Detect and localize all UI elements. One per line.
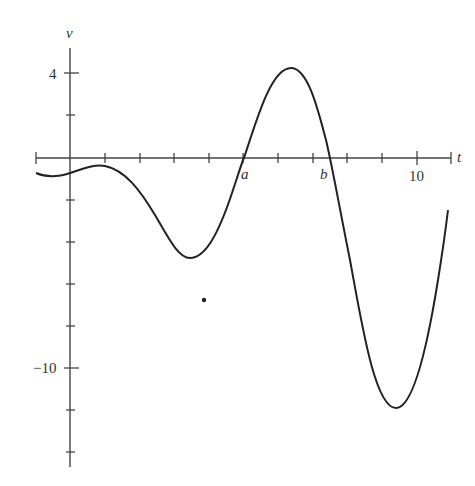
chart: v t 4 −10 a b 10: [0, 0, 475, 486]
stray-dot: [202, 298, 206, 302]
y-ticks: [64, 73, 79, 452]
x-tick-label-b: b: [320, 166, 328, 182]
y-tick-label-4: 4: [49, 66, 57, 82]
y-tick-label-neg10: −10: [33, 360, 56, 376]
x-tick-label-10: 10: [409, 168, 424, 184]
y-axis-label: v: [66, 25, 73, 41]
v-curve: [36, 68, 448, 408]
x-tick-label-a: a: [241, 166, 249, 182]
x-axis-label: t: [457, 149, 462, 165]
